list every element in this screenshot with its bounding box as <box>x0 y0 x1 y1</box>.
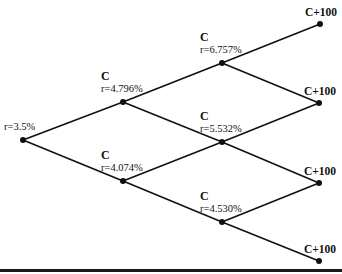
cash-flow-label: C <box>101 148 110 162</box>
tree-node <box>316 180 322 186</box>
rate-label: r=4.074% <box>101 162 143 173</box>
rate-label: r=5.532% <box>200 123 242 134</box>
tree-edge <box>222 63 319 103</box>
tree-edge <box>222 222 319 261</box>
rate-label: r=6.757% <box>200 44 242 55</box>
cash-flow-label: C+100 <box>304 165 336 177</box>
cash-flow-label: C+100 <box>304 85 336 97</box>
cash-flow-label: C <box>200 189 209 203</box>
tree-node <box>120 99 126 105</box>
cash-flow-label: C <box>101 69 110 83</box>
tree-node <box>219 139 225 145</box>
tree-edge <box>23 102 123 140</box>
rate-label: r=4.796% <box>101 83 143 94</box>
tree-node <box>316 258 322 264</box>
binomial-tree-diagram: r=3.5%Cr=4.796%Cr=4.074%Cr=6.757%Cr=5.53… <box>0 0 342 274</box>
tree-node <box>120 178 126 184</box>
tree-node <box>317 21 323 27</box>
tree-edges <box>23 24 320 261</box>
rate-label: r=3.5% <box>4 121 36 132</box>
tree-nodes <box>20 21 323 264</box>
tree-node <box>316 100 322 106</box>
cash-flow-label: C+100 <box>304 243 336 255</box>
bottom-rule <box>0 269 342 272</box>
tree-node <box>219 219 225 225</box>
tree-labels: r=3.5%Cr=4.796%Cr=4.074%Cr=6.757%Cr=5.53… <box>4 6 337 255</box>
rate-label: r=4.530% <box>200 203 242 214</box>
tree-node <box>20 137 26 143</box>
cash-flow-label: C <box>200 109 209 123</box>
cash-flow-label: C <box>200 30 209 44</box>
cash-flow-label: C+100 <box>305 6 337 18</box>
tree-node <box>219 60 225 66</box>
